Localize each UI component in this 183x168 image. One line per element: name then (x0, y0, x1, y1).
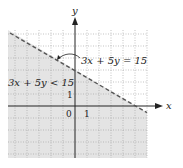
x-axis-arrow-icon (155, 103, 163, 109)
y-axis-label: y (71, 5, 78, 16)
equation-label: 3x + 5y = 15 (81, 55, 147, 66)
y-axis-arrow-icon (72, 17, 78, 25)
inequality-label: 3x + 5y < 15 (8, 77, 74, 88)
y-tick-1-label: 1 (67, 90, 73, 100)
graph: y x 0 1 1 3x + 5y = 15 3x + 5y < 15 (0, 0, 183, 168)
x-tick-1-label: 1 (84, 109, 90, 119)
arrowhead-icon (57, 55, 61, 60)
x-axis-label: x (166, 100, 172, 111)
origin-label: 0 (66, 109, 72, 119)
